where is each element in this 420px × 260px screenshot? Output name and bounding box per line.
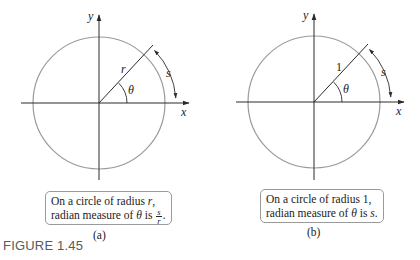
fraction-denominator: r bbox=[156, 217, 161, 225]
caption-box-b: On a circle of radius 1, radian measure … bbox=[260, 189, 384, 223]
caption-b-is: is bbox=[357, 207, 370, 219]
caption-a-is: is bbox=[142, 209, 155, 221]
arc-s-label-a: s bbox=[166, 66, 171, 80]
caption-b-line1: On a circle of radius 1, bbox=[266, 192, 378, 206]
sublabel-a: (a) bbox=[93, 229, 106, 241]
caption-a-line2-text: radian measure of bbox=[51, 209, 136, 221]
panel-b-diagram: y x 1 θ s bbox=[236, 8, 404, 180]
caption-a-fraction: sr bbox=[156, 208, 161, 225]
y-axis-label-a: y bbox=[87, 9, 94, 23]
radius-label-a: r bbox=[121, 62, 126, 76]
caption-box-a: On a circle of radius r, radian measure … bbox=[45, 191, 172, 225]
angle-arc-a bbox=[119, 83, 127, 103]
x-axis-label-a: x bbox=[180, 105, 187, 119]
theta-label-a: θ bbox=[128, 83, 134, 97]
caption-a-line1-suffix: , bbox=[152, 195, 155, 207]
caption-a-line2: radian measure of θ is sr. bbox=[51, 208, 166, 225]
caption-b-line2-text: radian measure of bbox=[266, 207, 351, 219]
x-axis-label-b: x bbox=[395, 104, 402, 118]
caption-b-line2-suffix: . bbox=[375, 207, 378, 219]
caption-a-line2-suffix: . bbox=[163, 209, 166, 221]
angle-arc-b bbox=[334, 82, 342, 102]
theta-label-b: θ bbox=[343, 82, 349, 96]
arc-s-label-b: s bbox=[381, 65, 386, 79]
caption-b-line1-text: On a circle of radius 1, bbox=[266, 193, 371, 205]
radius-label-b: 1 bbox=[336, 60, 342, 74]
y-axis-label-b: y bbox=[302, 8, 309, 22]
caption-b-line2: radian measure of θ is s. bbox=[266, 206, 378, 220]
caption-a-line1-text: On a circle of radius bbox=[51, 195, 148, 207]
figure-label: FIGURE 1.45 bbox=[3, 238, 83, 253]
sublabel-b: (b) bbox=[307, 226, 320, 238]
caption-a-line1: On a circle of radius r, bbox=[51, 194, 166, 208]
panel-a-diagram: y x r θ s bbox=[21, 9, 189, 180]
